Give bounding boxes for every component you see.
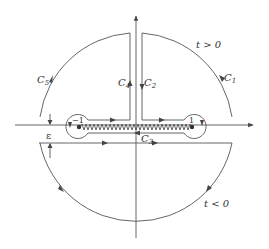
branch-point-left — [77, 125, 81, 129]
label-c1: C1 — [224, 72, 236, 85]
label-c2: C2 — [144, 77, 157, 90]
contour-diagram: C1 C2 C3 C4 C5 t > 0 t < 0 ε −1 1 — [0, 0, 269, 249]
label-epsilon: ε — [46, 130, 51, 141]
epsilon-down-arrow-icon — [48, 120, 53, 125]
c3-arrow-icon — [134, 131, 140, 136]
label-c3: C3 — [141, 133, 154, 146]
lower-chord-left-arrow-icon — [102, 141, 108, 146]
contour-c4-line — [128, 33, 133, 120]
upper-left-arrow-icon — [110, 118, 116, 123]
label-t-positive: t > 0 — [196, 39, 222, 50]
upper-right-arrow-icon — [159, 118, 165, 123]
label-one: 1 — [189, 116, 194, 125]
label-c5: C5 — [37, 74, 50, 87]
label-minus-one: −1 — [72, 116, 84, 125]
label-c4: C4 — [118, 77, 130, 90]
epsilon-up-arrow-icon — [48, 143, 53, 148]
label-t-negative: t < 0 — [204, 198, 230, 209]
contour-c5-arc — [40, 33, 130, 117]
lower-chord — [39, 141, 232, 146]
branch-point-right — [190, 125, 194, 129]
